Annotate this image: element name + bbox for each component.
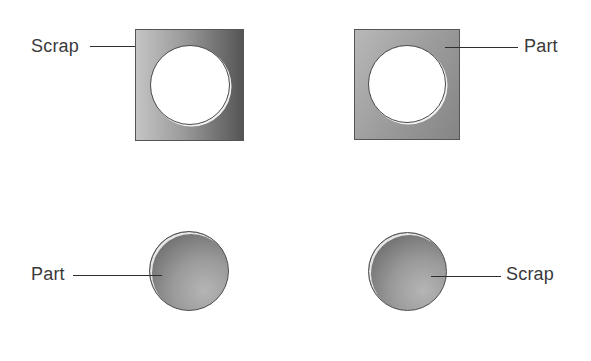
label-part-bottom-left: Part bbox=[31, 265, 65, 283]
label-scrap-bottom-right: Scrap bbox=[506, 265, 554, 283]
punched-hole bbox=[368, 45, 446, 123]
punched-hole bbox=[150, 45, 230, 125]
leader-line-bottom-left-overlay bbox=[73, 275, 162, 276]
label-scrap-top-left: Scrap bbox=[31, 37, 79, 55]
blanking-vs-punching-diagram: Scrap Part Part Scrap bbox=[0, 0, 591, 361]
square-frame-part bbox=[354, 29, 460, 140]
leader-line-top-right bbox=[445, 47, 518, 48]
leader-line-bottom-right bbox=[431, 276, 501, 277]
disc-part bbox=[149, 231, 229, 311]
label-part-top-right: Part bbox=[524, 37, 558, 55]
square-frame-scrap bbox=[135, 29, 244, 141]
disc-scrap bbox=[368, 232, 447, 311]
